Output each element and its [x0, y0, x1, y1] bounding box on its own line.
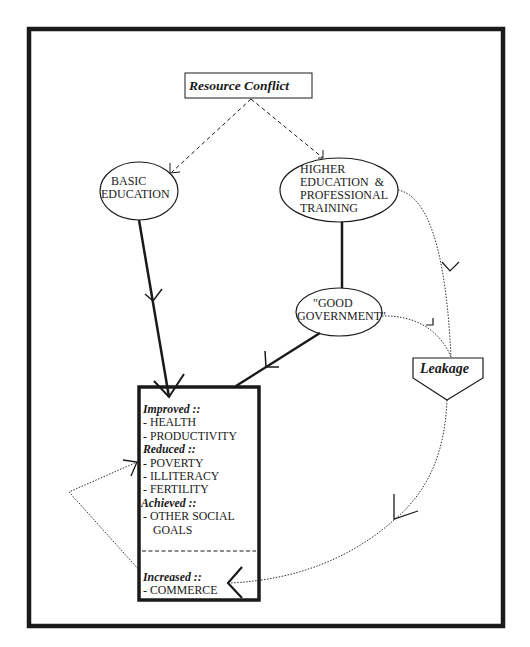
- outcomes-item-commerce: - COMMERCE: [143, 584, 237, 597]
- edge-resource-to-basic: [172, 99, 251, 172]
- outcomes-heading-reduced: Reduced ::: [143, 443, 237, 456]
- outcomes-item: - OTHER SOCIAL: [143, 510, 237, 523]
- mid-arrow-leakage-2-icon: [426, 318, 433, 325]
- outcomes-item: GOALS: [143, 524, 237, 537]
- good-government-label-line2: GOVERNMENT": [297, 310, 386, 323]
- edge-resource-to-higher: [251, 99, 323, 158]
- edge-goodgov-to-leakage: [382, 316, 451, 357]
- outer-frame: [29, 29, 503, 626]
- outcomes-item: - POVERTY: [143, 457, 237, 470]
- arrowhead-feedback-icon: [123, 460, 137, 476]
- edge-goodgov-to-outcomes: [236, 333, 320, 386]
- leakage-label: Leakage: [420, 362, 469, 375]
- resource-conflict-label: Resource Conflict: [189, 79, 289, 92]
- edge-higher-to-leakage: [398, 190, 451, 357]
- edge-leakage-to-commerce: [230, 400, 447, 583]
- edge-feedback-loop: [69, 462, 140, 571]
- mid-arrow-leakage-3-icon: [394, 494, 418, 519]
- mid-arrow-basic-icon: [145, 289, 162, 301]
- diagram-canvas: [0, 0, 530, 647]
- higher-education-label-line4: TRAINING: [300, 202, 358, 215]
- arrowhead-basic-icon: [170, 163, 180, 173]
- outcomes-heading-increased: Increased ::: [143, 571, 237, 584]
- outcomes-heading-achieved: Achieved ::: [141, 497, 237, 510]
- outcomes-list: Improved :: - HEALTH - PRODUCTIVITY Redu…: [143, 403, 237, 598]
- outcomes-item: - PRODUCTIVITY: [143, 430, 237, 443]
- mid-arrow-leakage-1-icon: [442, 262, 459, 271]
- outcomes-heading-improved: Improved ::: [143, 403, 237, 416]
- basic-education-label-line2: EDUCATION: [101, 188, 170, 201]
- outcomes-item: - FERTILITY: [143, 483, 237, 496]
- outcomes-item: - ILLITERACY: [143, 470, 237, 483]
- edge-basic-to-outcomes: [139, 220, 169, 397]
- outcomes-item: - HEALTH: [143, 416, 237, 429]
